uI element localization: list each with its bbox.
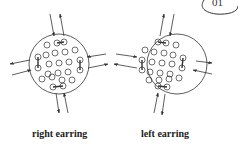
page-number-badge: 01	[202, 0, 238, 14]
earring-diagram-canvas: 01	[0, 0, 238, 147]
right-earring-diagram	[10, 14, 108, 113]
left-earring-diagram	[114, 14, 212, 115]
badge-text: 01	[212, 0, 223, 8]
right-earring-label: right earring	[32, 128, 87, 139]
left-earring-label: left earring	[141, 128, 189, 139]
